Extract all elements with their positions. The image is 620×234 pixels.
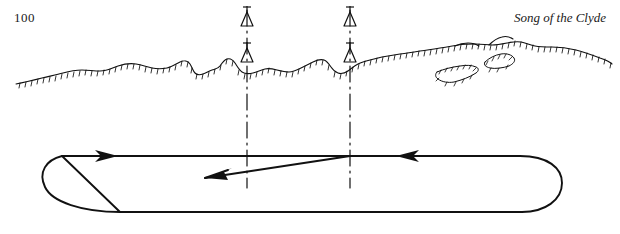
book-page: 100 Song of the Clyde bbox=[0, 0, 620, 234]
coastline bbox=[16, 37, 612, 88]
islet-right bbox=[484, 54, 514, 72]
track-loop bbox=[42, 156, 562, 212]
islet-left bbox=[436, 65, 479, 86]
figure-diagram bbox=[0, 0, 620, 234]
